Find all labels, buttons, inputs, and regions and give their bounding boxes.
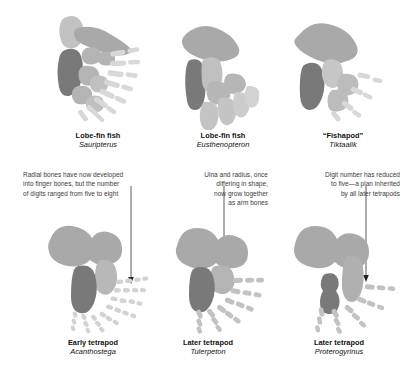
annotation-line: Ulna and radius, once (148, 170, 268, 179)
skeleton-art-proterogyrinus (285, 212, 410, 334)
common-name-tiktaalik: “Fishapod” (283, 131, 403, 140)
genus-name-eusthenopteron: Eusthenopteron (163, 140, 283, 149)
annotation-line: to five—a plan inherited (272, 179, 400, 188)
limb-figure-acanthostega (38, 212, 163, 334)
common-name-tulerpeton: Later tetrapod (148, 338, 268, 347)
caption-proterogyrinus: Later tetrapod Proterogyrinus (275, 338, 403, 357)
skeleton-art-tiktaalik (288, 12, 403, 130)
caption-tulerpeton: Later tetrapod Tulerpeton (148, 338, 268, 357)
genus-name-proterogyrinus: Proterogyrinus (275, 347, 403, 356)
annotation-line: by all later tetrapods (272, 189, 400, 198)
limb-figure-tulerpeton (163, 212, 288, 334)
genus-name-sauripterus: Sauripterus (38, 140, 158, 149)
skeleton-art-sauripterus (38, 12, 158, 130)
common-name-proterogyrinus: Later tetrapod (275, 338, 403, 347)
annotation-ulna-radius-fusion: Ulna and radius, once differing in shape… (148, 170, 268, 207)
annotation-line: Digit number has reduced (272, 170, 400, 179)
annotation-line: Radial bones have now developed (23, 170, 153, 179)
limb-figure-sauripterus (38, 12, 158, 130)
genus-name-tulerpeton: Tulerpeton (148, 347, 268, 356)
skeleton-art-tulerpeton (163, 212, 288, 334)
common-name-eusthenopteron: Lobe-fin fish (163, 131, 283, 140)
caption-tiktaalik: “Fishapod” Tiktaalik (283, 131, 403, 150)
common-name-sauripterus: Lobe-fin fish (38, 131, 158, 140)
caption-sauripterus: Lobe-fin fish Sauripterus (38, 131, 158, 150)
annotation-line: differing in shape, (148, 179, 268, 188)
limb-figure-proterogyrinus (285, 212, 410, 334)
annotation-line: now grow together (148, 189, 268, 198)
limb-figure-eusthenopteron (168, 12, 278, 130)
common-name-acanthostega: Early tetrapod (33, 338, 153, 347)
caption-acanthostega: Early tetrapod Acanthostega (33, 338, 153, 357)
annotation-digit-reduction: Digit number has reduced to five—a plan … (272, 170, 400, 198)
skeleton-art-eusthenopteron (168, 12, 278, 130)
limb-figure-tiktaalik (288, 12, 403, 130)
annotation-line: as arm bones (148, 198, 268, 207)
genus-name-tiktaalik: Tiktaalik (283, 140, 403, 149)
genus-name-acanthostega: Acanthostega (33, 347, 153, 356)
caption-eusthenopteron: Lobe-fin fish Eusthenopteron (163, 131, 283, 150)
figure-canvas: Lobe-fin fish Sauripterus Lobe-fin fish … (0, 0, 413, 378)
skeleton-art-acanthostega (38, 212, 163, 334)
